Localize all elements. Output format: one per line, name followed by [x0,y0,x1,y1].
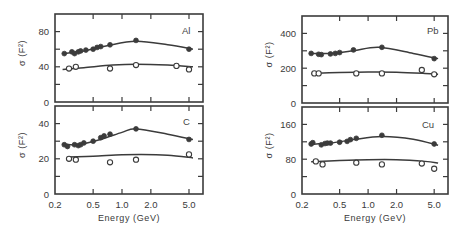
data-point-open [419,161,424,166]
x-tick-label: 1.0 [115,199,128,210]
data-point-filled [348,137,353,142]
data-point-open [133,62,138,67]
x-tick-label: 5.0 [428,199,441,210]
data-point-open [316,71,321,76]
data-point-open [379,162,384,167]
x-tick-label: 0.5 [333,199,346,210]
data-point-filled [337,50,342,55]
data-point-open [354,71,359,76]
x-tick-label: 1.0 [361,199,374,210]
data-point-filled [134,38,139,43]
data-point-filled [102,134,107,139]
data-point-filled [187,47,192,52]
panel-label: Cu [422,119,434,130]
fit-curve-open-fit [311,72,438,74]
data-point-filled [187,137,192,142]
data-point-open [66,156,71,161]
y-tick-label: 0 [44,97,49,108]
data-point-filled [432,142,437,147]
data-point-open [432,166,437,171]
data-point-open [174,63,179,68]
data-point-filled [62,51,67,56]
data-point-open [73,157,78,162]
y-tick-label: 40 [38,61,49,72]
data-point-filled [328,52,333,57]
x-tick-label: 0.2 [295,199,308,210]
y-tick-label: 200 [280,63,296,74]
y-axis-title: σ (F²) [264,41,274,67]
y-tick-label: 80 [38,26,49,37]
panel-label: C [183,116,190,127]
data-point-open [379,71,384,76]
x-axis-title: Energy (GeV) [98,213,160,223]
fit-curve-open-fit [69,154,193,158]
x-tick-label: 2.0 [390,199,403,210]
data-point-filled [380,133,385,138]
data-point-filled [91,139,96,144]
data-point-open [133,157,138,162]
x-tick-label: 0.5 [87,199,100,210]
x-axis-title: Energy (GeV) [344,213,406,223]
data-point-filled [354,136,359,141]
data-point-filled [78,49,83,54]
data-point-filled [134,126,139,131]
plot-frame [55,106,203,194]
y-axis-title: σ (F²) [264,132,274,158]
y-tick-label: 0 [44,189,49,200]
data-point-filled [337,140,342,145]
data-point-filled [432,56,437,61]
y-tick-label: 400 [280,28,296,39]
panel-label: Al [182,25,190,36]
x-tick-label: 0.2 [48,199,61,210]
data-point-open [107,160,112,165]
y-axis-title: σ (F²) [17,40,27,66]
data-point-open [73,64,78,69]
y-axis-title: σ (F²) [17,132,27,158]
panel-label: Pb [427,25,439,36]
data-point-open [107,66,112,71]
data-point-filled [328,141,333,146]
y-tick-label: 160 [280,119,296,130]
data-point-filled [309,51,314,56]
data-point-filled [351,48,356,53]
panel-c: 020400.20.51.02.05.0σ (F²)C [17,106,203,210]
panel-al: 04080σ (F²)Al [17,14,203,108]
data-point-filled [108,132,113,137]
data-point-filled [310,140,315,145]
data-point-open [66,66,71,71]
data-point-open [313,159,318,164]
y-tick-label: 40 [38,118,49,129]
y-tick-label: 0 [291,98,296,109]
data-point-open [186,67,191,72]
data-point-open [186,152,191,157]
panel-cu: 0801600.20.51.02.05.0σ (F²)Cu [264,107,448,210]
data-point-open [432,72,437,77]
data-point-filled [81,141,86,146]
data-point-filled [98,44,103,49]
x-tick-label: 5.0 [182,199,195,210]
y-tick-label: 0 [291,189,296,200]
data-point-filled [319,52,324,57]
plot-frame [55,14,203,102]
y-tick-label: 80 [285,154,296,165]
data-point-open [419,67,424,72]
panel-pb: 0200400σ (F²)Pb [264,16,448,109]
x-tick-label: 2.0 [144,199,157,210]
data-point-filled [83,48,88,53]
data-point-open [354,160,359,165]
fit-curve-open-fit [63,64,193,69]
data-point-filled [380,45,385,50]
data-point-filled [108,42,113,47]
chart-figure: 04080σ (F²)Al020400.20.51.02.05.0σ (F²)C… [0,0,462,241]
data-point-filled [65,144,70,149]
y-tick-label: 20 [38,153,49,164]
data-point-open [320,162,325,167]
